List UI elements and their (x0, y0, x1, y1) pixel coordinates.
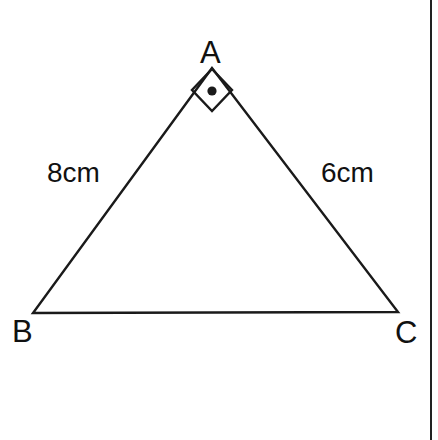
vertex-label-a: A (200, 37, 221, 68)
vertex-label-c: C (395, 317, 417, 348)
triangle-outline (33, 68, 398, 313)
page-edge-rule (430, 0, 432, 440)
geometry-figure-canvas: A B C 8cm 6cm (0, 0, 438, 440)
right-angle-dot-icon (207, 86, 216, 95)
side-length-label-ab: 8cm (47, 159, 100, 187)
side-length-label-ac: 6cm (321, 159, 374, 187)
vertex-label-b: B (12, 316, 33, 347)
